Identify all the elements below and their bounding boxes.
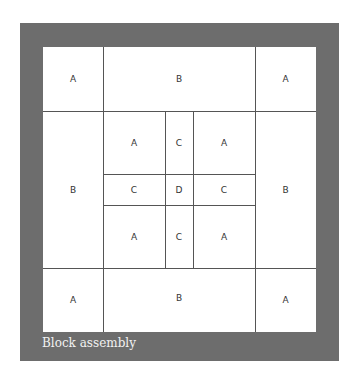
- block-center-mid-mid: D: [165, 174, 193, 205]
- block-outer-mid-right: B: [255, 111, 316, 268]
- block-center-mid-right: C: [193, 174, 255, 205]
- block-outer-mid-left: B: [43, 111, 103, 268]
- block-center-mid-left: C: [103, 174, 165, 205]
- block-center-bottom-right: A: [193, 205, 255, 268]
- block-outer-bottom-center: B: [103, 268, 255, 328]
- block-center-bottom-left: A: [103, 205, 165, 268]
- block-center-bottom-mid: C: [165, 205, 193, 268]
- block-outer-bottom-right: A: [255, 268, 316, 332]
- block-outer-top-center: B: [103, 47, 255, 111]
- block-outer-bottom-left: A: [43, 268, 103, 332]
- block-center-top-left: A: [103, 111, 165, 174]
- block-outer-top-right: A: [255, 47, 316, 111]
- block-outer-top-left: A: [43, 47, 103, 111]
- diagram-caption: Block assembly: [42, 336, 136, 350]
- block-center-top-mid: C: [165, 111, 193, 174]
- block-center-top-right: A: [193, 111, 255, 174]
